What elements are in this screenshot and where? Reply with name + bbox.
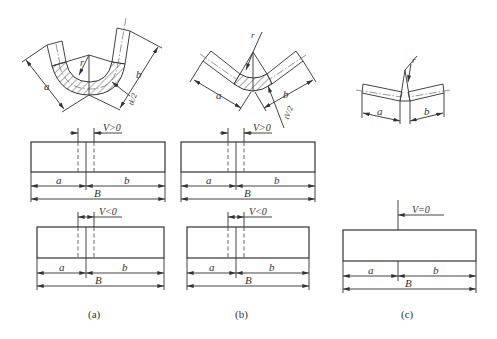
panel-b-top-dim-b: b: [274, 174, 280, 186]
panel-b-dim-b: b: [283, 88, 289, 100]
panel-a-top-v-label: V>0: [103, 122, 121, 133]
panel-a-bottom-dim-B: B: [95, 274, 102, 286]
panel-a-top-dim-a: a: [56, 174, 62, 186]
panel-a-bottom-dim-b: b: [122, 261, 128, 273]
panel-a-top-blank: V>0 a b B: [31, 122, 165, 202]
panel-c-dim-b: b: [424, 105, 430, 117]
panel-a-bottom-v-label: V<0: [99, 206, 117, 217]
caption-a: (a): [88, 308, 101, 321]
panel-a-dim-b: b: [136, 68, 142, 80]
caption-b: (b): [235, 308, 248, 321]
panel-b-top-v-label: V>0: [253, 122, 271, 133]
panel-b-dim-a: a: [216, 89, 222, 101]
panel-b-bend-view: r a b tV/2: [190, 30, 316, 128]
bending-allowance-diagram: r a b tk/2 r a b: [0, 0, 497, 339]
panel-b-top-dim-a: a: [206, 174, 212, 186]
panel-b-top-dim-B: B: [244, 187, 251, 199]
panel-c-blank: V=0 a b B: [343, 200, 476, 293]
panel-b-bottom-v-label: V<0: [249, 206, 267, 217]
panel-c-bend-view: r a b: [356, 55, 450, 124]
panel-b-bottom-dim-B: B: [245, 274, 252, 286]
panel-a-r-label: r: [80, 57, 84, 68]
panel-a-bottom-blank: V<0 a b B: [37, 206, 164, 290]
panel-a-dim-a: a: [44, 80, 50, 92]
panel-c-dim-B: B: [405, 277, 412, 289]
panel-a-bend-view: r a b tk/2: [22, 18, 162, 112]
panel-c-dim-a: a: [377, 105, 383, 117]
panel-a-top-dim-b: b: [124, 174, 130, 186]
panel-b-bottom-dim-a: a: [209, 261, 215, 273]
caption-c: (c): [401, 308, 414, 321]
panel-a-bottom-dim-a: a: [59, 261, 65, 273]
panel-b-r-label: r: [251, 30, 255, 40]
panel-c-r-label: r: [412, 55, 416, 65]
panel-b-bottom-dim-b: b: [269, 261, 275, 273]
panel-c-dim-b: b: [433, 264, 439, 276]
panel-b-top-blank: V>0 a b B: [181, 122, 315, 202]
panel-a-top-dim-B: B: [94, 187, 101, 199]
panel-b-thickness-label: tV/2: [282, 105, 295, 121]
panel-c-dim-a: a: [368, 264, 374, 276]
panel-b-bottom-blank: V<0 a b B: [187, 206, 309, 290]
panel-c-v-label: V=0: [412, 204, 430, 215]
